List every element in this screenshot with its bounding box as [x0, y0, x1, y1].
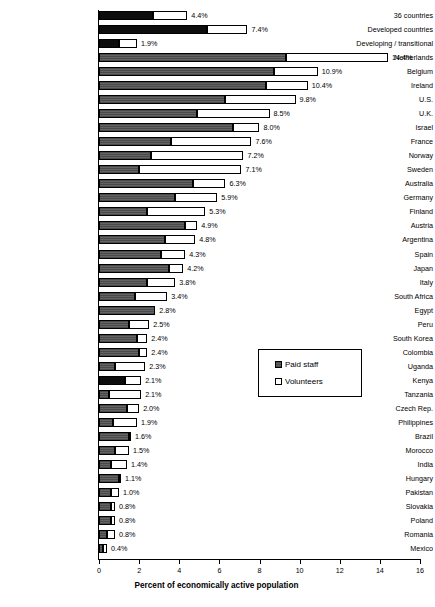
stacked-bar — [99, 278, 175, 287]
bar-segment-paid-staff — [99, 53, 286, 62]
bar-value-label: 4.4% — [191, 10, 207, 21]
bar-row: Belgium10.9% — [0, 66, 433, 77]
bar-value-label: 5.9% — [221, 192, 237, 203]
bar-segment-paid-staff — [99, 502, 111, 511]
category-label: Sweden — [337, 164, 433, 175]
stacked-bar — [99, 165, 241, 174]
bar-segment-volunteers — [127, 404, 139, 413]
stacked-bar — [99, 460, 127, 469]
bar-segment-volunteers — [111, 488, 119, 497]
legend: Paid staff Volunteers — [258, 349, 362, 397]
bar-value-label: 0.8% — [119, 501, 135, 512]
bar-value-label: 1.9% — [141, 38, 157, 49]
stacked-bar — [99, 446, 129, 455]
bar-value-label: 14.4% — [392, 52, 412, 63]
x-tick-label: 12 — [325, 566, 355, 575]
bar-segment-volunteers — [165, 235, 195, 244]
category-label: Austria — [337, 220, 433, 231]
bar-row: Philippines1.9% — [0, 417, 433, 428]
stacked-bar — [99, 67, 318, 76]
bar-segment-paid-staff — [99, 418, 113, 427]
category-label: 36 countries — [337, 10, 433, 21]
category-label: Germany — [337, 192, 433, 203]
category-label: France — [337, 136, 433, 147]
bar-row: Uganda2.3% — [0, 361, 433, 372]
bar-row: Colombia2.4% — [0, 347, 433, 358]
bar-segment-volunteers — [103, 544, 107, 553]
bar-segment-paid-staff — [99, 390, 109, 399]
bar-value-label: 4.9% — [201, 220, 217, 231]
bar-segment-paid-staff — [99, 348, 139, 357]
stacked-bar — [99, 292, 167, 301]
bar-segment-volunteers — [107, 530, 115, 539]
stacked-bar — [99, 530, 115, 539]
bar-value-label: 0.4% — [111, 543, 127, 554]
bar-value-label: 4.3% — [189, 249, 205, 260]
bar-value-label: 6.3% — [229, 178, 245, 189]
bar-segment-volunteers — [147, 278, 175, 287]
bar-segment-volunteers — [119, 39, 137, 48]
category-label: Czech Rep. — [337, 403, 433, 414]
bar-segment-paid-staff — [99, 67, 274, 76]
bar-segment-volunteers — [129, 320, 149, 329]
category-label: Italy — [337, 277, 433, 288]
bar-row: Japan4.2% — [0, 263, 433, 274]
category-label: Philippines — [337, 417, 433, 428]
bar-segment-paid-staff — [99, 376, 125, 385]
stacked-bar — [99, 235, 195, 244]
bar-segment-paid-staff — [99, 320, 129, 329]
bar-segment-volunteers — [111, 502, 115, 511]
category-label: U.K. — [337, 108, 433, 119]
stacked-bar — [99, 179, 225, 188]
stacked-bar — [99, 25, 247, 34]
stacked-bar — [99, 11, 187, 20]
category-label: Developing / transitional — [337, 38, 433, 49]
category-label: Poland — [337, 515, 433, 526]
x-tick — [380, 560, 381, 564]
bar-row: Kenya2.1% — [0, 375, 433, 386]
bar-row: Netherlands14.4% — [0, 52, 433, 63]
bar-value-label: 9.8% — [300, 94, 316, 105]
legend-swatch-paid-staff — [275, 361, 282, 368]
category-label: Egypt — [337, 305, 433, 316]
x-tick-label: 10 — [285, 566, 315, 575]
bar-row: Ireland10.4% — [0, 80, 433, 91]
category-label: South Korea — [337, 333, 433, 344]
bar-value-label: 1.4% — [131, 459, 147, 470]
bar-segment-paid-staff — [99, 292, 135, 301]
bar-segment-paid-staff — [99, 432, 129, 441]
bar-row: Peru2.5% — [0, 319, 433, 330]
bar-segment-paid-staff — [99, 165, 139, 174]
bar-value-label: 2.0% — [143, 403, 159, 414]
stacked-bar — [99, 123, 260, 132]
bar-value-label: 2.1% — [145, 375, 161, 386]
category-label: Norway — [337, 150, 433, 161]
category-label: Slovakia — [337, 501, 433, 512]
bar-value-label: 1.5% — [133, 445, 149, 456]
bar-row: South Korea2.4% — [0, 333, 433, 344]
stacked-bar — [99, 502, 115, 511]
category-label: Spain — [337, 249, 433, 260]
bar-segment-volunteers — [197, 109, 269, 118]
stacked-bar — [99, 95, 296, 104]
bar-row: India1.4% — [0, 459, 433, 470]
category-label: Mexico — [337, 543, 433, 554]
stacked-bar — [99, 81, 308, 90]
bar-segment-paid-staff — [99, 250, 161, 259]
bar-row: France7.6% — [0, 136, 433, 147]
x-tick-label: 4 — [164, 566, 194, 575]
category-label: Morocco — [337, 445, 433, 456]
bar-value-label: 7.4% — [251, 24, 267, 35]
x-tick — [179, 560, 180, 564]
bar-row: U.S.9.8% — [0, 94, 433, 105]
bar-value-label: 2.4% — [151, 347, 167, 358]
bar-segment-volunteers — [169, 264, 183, 273]
stacked-bar — [99, 348, 147, 357]
bar-row: Austria4.9% — [0, 220, 433, 231]
legend-item-paid-staff: Paid staff — [275, 360, 318, 370]
bar-value-label: 7.6% — [255, 136, 271, 147]
bar-row: Finland5.3% — [0, 206, 433, 217]
bar-value-label: 2.1% — [145, 389, 161, 400]
bar-segment-volunteers — [161, 250, 185, 259]
bar-segment-volunteers — [185, 221, 197, 230]
